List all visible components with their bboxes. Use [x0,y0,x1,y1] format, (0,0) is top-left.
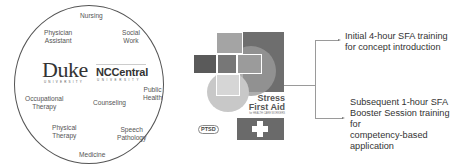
discipline-label: Therapy [32,103,56,110]
discipline-social-work: Social Work [122,29,140,45]
cover-subtitle: for HEALTH CARE WORKERS [245,112,285,115]
ptsd-badge: PTSD [198,125,219,134]
discipline-medicine: Medicine [79,151,105,159]
discipline-label: Work [123,37,138,44]
discipline-label: Health [143,94,162,101]
discipline-physician-assistant: Physician Assistant [44,29,72,45]
cover-title: Stress First Aid [245,94,285,112]
nccentral-logo: NCCentral [96,66,148,78]
connector-vertical [315,40,316,119]
discipline-label: Public [144,86,162,93]
step-text: application [350,141,394,151]
cover-title-line2: First Aid [249,102,285,112]
step-text: Initial 4-hour SFA training [345,31,448,41]
step-booster-training: Subsequent 1-hour SFA Booster Session tr… [350,97,460,152]
connector-trunk [284,85,316,86]
connector-branch-top [315,40,339,41]
discipline-nursing: Nursing [80,12,103,20]
step-text: for concept introduction [345,42,441,52]
nccentral-logo-subtitle: UNIVERSITY [97,78,141,82]
nccentral-logo-rule [96,64,146,65]
step-text: competency-based [350,130,428,140]
cover-photo [216,74,240,96]
arrow-head-icon [338,39,341,41]
discipline-counseling: Counseling [93,99,126,107]
first-aid-cross-icon [252,126,268,132]
discipline-label: Speech [120,126,142,133]
cover-photo [216,32,243,54]
step-text: Booster Session training for [350,108,450,129]
cover-photo [193,54,217,74]
cover-photo [237,54,262,74]
discipline-public-health: Public Health [143,86,162,102]
discipline-label: Therapy [52,132,76,139]
duke-logo: Duke [42,60,88,80]
duke-logo-subtitle: UNIVERSITY [44,80,84,84]
cover-photo [217,54,237,74]
discipline-label: Occupational [25,95,64,102]
discipline-occupational-therapy: Occupational Therapy [25,95,64,111]
discipline-label: Social [122,29,140,36]
discipline-speech-pathology: Speech Pathology [117,126,146,142]
discipline-label: Assistant [45,37,72,44]
discipline-label: Physical [52,124,77,131]
discipline-physical-therapy: Physical Therapy [52,124,77,140]
discipline-label: Pathology [117,134,146,141]
step-text: Subsequent 1-hour SFA [350,97,448,107]
discipline-label: Physician [44,29,72,36]
connector-branch-bottom [315,118,343,119]
step-initial-training: Initial 4-hour SFA training for concept … [345,31,448,53]
arrow-head-icon [342,117,345,119]
